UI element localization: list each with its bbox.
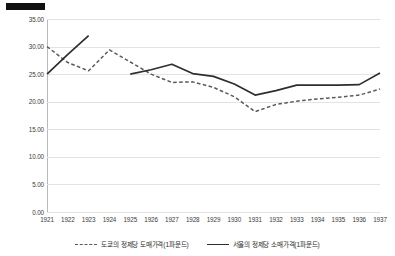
plot-area: [47, 19, 380, 212]
solid-line-icon: [207, 244, 229, 245]
chart-container: 0.005.0010.0015.0020.0025.0030.0035.00 1…: [0, 0, 395, 256]
legend-label: 서울의 정제당 소매가격(1파운드): [233, 240, 320, 249]
series-lines: [47, 19, 380, 212]
legend-entry[interactable]: 서울의 정제당 소매가격(1파운드): [207, 240, 320, 249]
y-tick-label: 15.00: [2, 126, 44, 133]
y-tick-label: 10.00: [2, 153, 44, 160]
y-tick-label: 30.00: [2, 43, 44, 50]
gridline: [47, 212, 380, 213]
series-line: [130, 64, 380, 95]
legend-entry[interactable]: 도쿄의 정제당 도매가격(1파운드): [75, 240, 188, 249]
legend-label: 도쿄의 정제당 도매가격(1파운드): [101, 240, 188, 249]
y-tick-label: 35.00: [2, 16, 44, 23]
dashed-line-icon: [75, 244, 97, 245]
x-tick-label: 1937: [367, 216, 393, 224]
chart-legend: 도쿄의 정제당 도매가격(1파운드)서울의 정제당 소매가격(1파운드): [0, 236, 395, 252]
series-line: [47, 47, 380, 112]
x-axis-tick-labels: 1921192219231924192519261927192819291930…: [47, 216, 380, 228]
y-tick-label: 5.00: [2, 181, 44, 188]
series-line: [47, 36, 89, 75]
y-tick-label: 25.00: [2, 71, 44, 78]
y-tick-label: 0.00: [2, 209, 44, 216]
y-tick-label: 20.00: [2, 98, 44, 105]
